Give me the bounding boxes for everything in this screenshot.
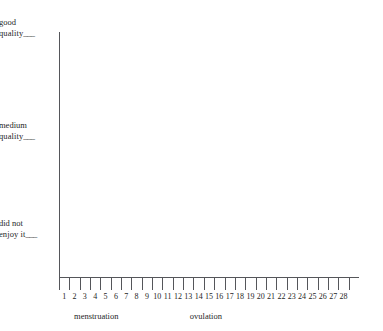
x-axis-tick	[59, 277, 60, 290]
x-axis-tick-label: 13	[184, 291, 192, 302]
y-axis-tick-did-not-enjoy: ___	[26, 229, 37, 239]
x-axis-tick	[287, 277, 288, 290]
x-axis-tick-label: 4	[93, 291, 97, 302]
x-axis-tick	[204, 277, 205, 290]
y-axis-label-did-not-enjoy-line1: did not	[0, 218, 65, 229]
x-axis-tick-label: 24	[298, 291, 306, 302]
y-axis-label-did-not-enjoy-line2: enjoy it___	[0, 229, 65, 240]
x-axis-tick	[297, 277, 298, 290]
x-axis-phase-label: ovulation	[190, 311, 222, 322]
x-axis-tick-label: 10	[153, 291, 161, 302]
x-axis-tick	[162, 277, 163, 290]
y-axis-label-good-quality-line1: good	[0, 17, 65, 28]
x-axis-tick	[100, 277, 101, 290]
y-axis-label-medium-quality-line2: quality___	[0, 131, 65, 142]
x-axis-tick-label: 3	[83, 291, 87, 302]
x-axis-tick-label: 20	[257, 291, 265, 302]
x-axis-tick-label: 27	[329, 291, 337, 302]
x-axis-tick	[338, 277, 339, 290]
y-axis-tick-medium-quality: ___	[23, 131, 34, 141]
x-axis-tick	[193, 277, 194, 290]
x-axis-tick	[328, 277, 329, 290]
y-axis-line	[59, 32, 60, 278]
x-axis-tick	[256, 277, 257, 290]
x-axis-tick-label: 14	[195, 291, 203, 302]
x-axis-tick	[90, 277, 91, 290]
y-axis-label-good-quality-line2: quality___	[0, 28, 65, 39]
x-axis-tick	[131, 277, 132, 290]
x-axis-tick-label: 19	[246, 291, 254, 302]
x-axis-tick-label: 9	[145, 291, 149, 302]
y-axis-label-good-quality: good quality___	[0, 17, 65, 38]
x-axis-tick	[173, 277, 174, 290]
x-axis-tick-label: 11	[164, 291, 172, 302]
x-axis-tick	[183, 277, 184, 290]
x-axis-tick-label: 15	[205, 291, 213, 302]
x-axis-tick-label: 1	[62, 291, 66, 302]
x-axis-tick-label: 25	[308, 291, 316, 302]
x-axis-phase-label: menstruation	[74, 311, 118, 322]
x-axis-tick-label: 26	[319, 291, 327, 302]
x-axis-tick	[121, 277, 122, 290]
x-axis-tick	[152, 277, 153, 290]
x-axis-tick-label: 17	[226, 291, 234, 302]
x-axis-tick-labels: 1234567891011121314151617181920212223242…	[59, 291, 359, 303]
x-axis-tick-label: 2	[73, 291, 77, 302]
x-axis-tick	[69, 277, 70, 290]
x-axis-tick	[307, 277, 308, 290]
x-axis-tick	[142, 277, 143, 290]
x-axis-tick	[245, 277, 246, 290]
cropped-caption-remnant	[58, 0, 326, 6]
x-axis-tick-label: 23	[288, 291, 296, 302]
y-axis-label-medium-quality: medium quality___	[0, 120, 65, 141]
x-axis-tick-label: 18	[236, 291, 244, 302]
x-axis-tick	[318, 277, 319, 290]
y-axis-tick-good-quality: ___	[23, 28, 34, 38]
x-axis-tick	[225, 277, 226, 290]
x-axis-tick-label: 8	[135, 291, 139, 302]
x-axis-tick-label: 12	[174, 291, 182, 302]
x-axis-tick	[111, 277, 112, 290]
x-axis-tick-label: 7	[124, 291, 128, 302]
x-axis-tick	[349, 277, 350, 290]
chart-figure: good quality___ medium quality___ did no…	[0, 0, 383, 331]
x-axis-tick	[276, 277, 277, 290]
y-axis-label-medium-quality-line1: medium	[0, 120, 65, 131]
x-axis-tick-label: 22	[277, 291, 285, 302]
x-axis-tick	[80, 277, 81, 290]
x-axis-tick-marks	[59, 277, 359, 291]
x-axis-tick-label: 28	[339, 291, 347, 302]
x-axis-tick-label: 6	[114, 291, 118, 302]
x-axis-tick-label: 5	[104, 291, 108, 302]
x-axis-tick-label: 21	[267, 291, 275, 302]
x-axis-tick	[266, 277, 267, 290]
x-axis-tick-label: 16	[215, 291, 223, 302]
x-axis-tick	[235, 277, 236, 290]
y-axis-label-did-not-enjoy: did not enjoy it___	[0, 218, 65, 239]
x-axis-tick	[214, 277, 215, 290]
